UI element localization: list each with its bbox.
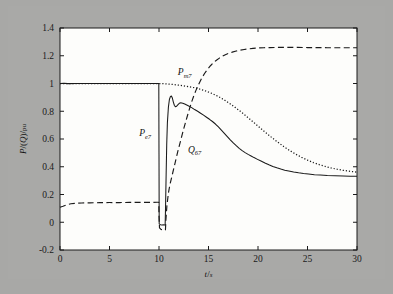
y-tick-label: 0.8: [42, 107, 54, 117]
y-tick-label: 1.2: [42, 51, 54, 61]
x-axis-title: t/s: [205, 269, 213, 279]
y-tick-label: 0: [49, 218, 54, 228]
figure-container: 051015202530-0.200.20.40.60.811.21.4t/sP…: [0, 0, 393, 294]
y-tick-label: 1.4: [42, 23, 54, 33]
y-tick-label: 0.4: [42, 162, 54, 172]
x-tick-label: 30: [352, 254, 362, 264]
y-tick-label: 1: [49, 79, 54, 89]
x-tick-label: 5: [107, 254, 112, 264]
y-axis-title: P/(Q)/pu: [18, 124, 28, 156]
x-tick-label: 10: [154, 254, 164, 264]
x-tick-label: 25: [303, 254, 313, 264]
y-tick-label: 0.6: [42, 134, 54, 144]
svg-text:P/(Q)/pu: P/(Q)/pu: [18, 124, 28, 156]
chart-plot: 051015202530-0.200.20.40.60.811.21.4t/sP…: [0, 0, 393, 294]
x-tick-label: 20: [253, 254, 263, 264]
x-tick-label: 15: [204, 254, 214, 264]
y-tick-label: 0.2: [42, 190, 54, 200]
plot-area: [60, 28, 357, 250]
y-tick-label: -0.2: [39, 245, 54, 255]
x-tick-label: 0: [58, 254, 63, 264]
